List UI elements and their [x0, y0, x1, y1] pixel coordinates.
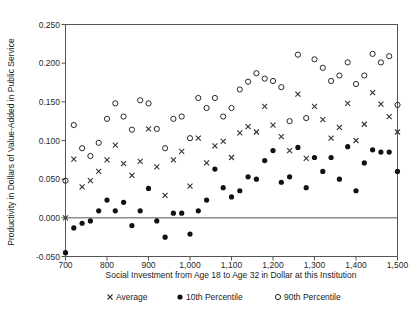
data-point-90th: [387, 54, 392, 59]
data-point-10th: [113, 208, 118, 213]
legend-label: Average: [116, 292, 148, 302]
data-point-average: [229, 155, 234, 160]
series-90th-percentile: [63, 51, 400, 183]
data-point-10th: [71, 225, 76, 230]
legend-item: 10th Percentile: [177, 292, 243, 302]
y-tick-label: 0.150: [39, 97, 61, 107]
data-point-average: [204, 160, 209, 165]
data-point-90th: [353, 81, 358, 86]
data-point-average: [362, 122, 367, 127]
data-point-average: [370, 90, 375, 95]
data-point-90th: [312, 57, 317, 62]
data-point-10th: [187, 231, 192, 236]
data-point-90th: [129, 127, 134, 132]
data-point-10th: [96, 208, 101, 213]
data-point-10th: [254, 177, 259, 182]
data-point-90th: [329, 78, 334, 83]
data-point-average: [304, 156, 309, 161]
data-point-90th: [204, 105, 209, 110]
data-point-90th: [378, 60, 383, 65]
data-point-10th: [395, 169, 400, 174]
data-point-90th: [80, 146, 85, 151]
data-point-average: [105, 157, 110, 162]
data-point-90th: [121, 114, 126, 119]
data-point-90th: [221, 114, 226, 119]
data-point-10th: [370, 147, 375, 152]
x-tick-label-group: 7008009001,0001,1001,2001,3001,4001,500: [58, 260, 408, 270]
data-point-10th: [270, 148, 275, 153]
data-point-90th: [320, 65, 325, 70]
data-point-average: [179, 149, 184, 154]
data-point-10th: [80, 221, 85, 226]
data-point-average: [171, 157, 176, 162]
chart-legend: Average10th Percentile90th Percentile: [108, 292, 341, 302]
data-point-90th: [138, 98, 143, 103]
x-tick-label: 1,400: [345, 260, 367, 270]
data-point-average: [163, 193, 168, 198]
data-point-10th: [138, 208, 143, 213]
data-point-10th: [279, 180, 284, 185]
data-point-average: [378, 102, 383, 107]
legend-label: 10th Percentile: [186, 292, 243, 302]
data-point-average: [329, 136, 334, 141]
data-point-10th: [163, 235, 168, 240]
data-point-10th: [146, 186, 151, 191]
x-tick-label: 1,300: [304, 260, 326, 270]
y-tick-label: 0.200: [39, 58, 61, 68]
data-point-average: [71, 157, 76, 162]
data-point-10th: [63, 250, 68, 255]
data-point-average: [337, 125, 342, 130]
data-point-90th: [229, 105, 234, 110]
data-point-90th: [113, 101, 118, 106]
data-point-average: [221, 139, 226, 144]
data-point-average: [237, 130, 242, 135]
data-point-10th: [329, 155, 334, 160]
data-point-10th: [229, 194, 234, 199]
data-point-10th: [304, 185, 309, 190]
data-point-90th: [246, 79, 251, 84]
data-point-10th: [129, 223, 134, 228]
data-point-average: [196, 136, 201, 141]
data-point-90th: [212, 95, 217, 100]
data-point-90th: [337, 73, 342, 78]
data-point-90th: [171, 116, 176, 121]
data-point-90th: [270, 78, 275, 83]
data-point-10th: [387, 150, 392, 155]
data-point-10th: [204, 197, 209, 202]
data-point-90th: [163, 146, 168, 151]
legend-item: 90th Percentile: [275, 292, 341, 302]
data-point-10th: [171, 211, 176, 216]
data-point-average: [387, 114, 392, 119]
data-point-10th: [345, 144, 350, 149]
data-point-10th: [179, 211, 184, 216]
y-tick-label: -0.050: [36, 252, 60, 262]
data-point-average: [254, 129, 259, 134]
x-tick-label: 800: [100, 260, 114, 270]
data-point-average: [246, 124, 251, 129]
data-point-90th: [279, 85, 284, 90]
data-point-10th: [121, 200, 126, 205]
data-point-90th: [237, 87, 242, 92]
data-point-average: [80, 184, 85, 189]
data-point-average: [279, 134, 284, 139]
data-point-average: [354, 138, 359, 143]
y-tick-label-group: -0.0500.0000.0500.1000.1500.2000.250: [36, 20, 60, 262]
data-point-90th: [295, 52, 300, 57]
data-point-average: [129, 173, 134, 178]
data-point-90th: [304, 115, 309, 120]
data-point-average: [188, 184, 193, 189]
data-point-90th: [196, 95, 201, 100]
data-point-average: [320, 117, 325, 122]
y-axis-title-group: Productivity in Dollars of Value-Added i…: [6, 38, 16, 246]
data-point-90th: [179, 114, 184, 119]
x-tick-label: 1,100: [221, 260, 243, 270]
data-point-average: [138, 159, 143, 164]
data-point-90th: [154, 126, 159, 131]
chart-container: Productivity in Dollars of Value-Added i…: [0, 0, 417, 316]
data-point-10th: [196, 208, 201, 213]
data-point-90th: [104, 116, 109, 121]
data-point-10th: [221, 185, 226, 190]
data-point-average: [212, 143, 217, 148]
data-point-average: [312, 104, 317, 109]
series-10th-percentile: [63, 144, 400, 255]
